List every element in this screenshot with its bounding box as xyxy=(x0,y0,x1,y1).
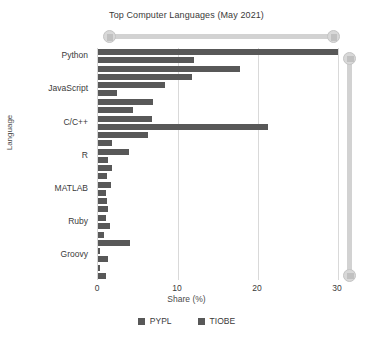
vertical-slider-track[interactable] xyxy=(347,58,352,276)
horizontal-slider-handle-right[interactable] xyxy=(327,30,340,43)
gridline-30 xyxy=(338,48,339,280)
bar xyxy=(98,74,192,80)
bar xyxy=(98,256,108,262)
bar xyxy=(98,173,107,179)
vertical-slider-handle-bottom[interactable] xyxy=(343,269,356,282)
legend-item-tiobe[interactable]: TIOBE xyxy=(198,316,236,326)
chart-title: Top Computer Languages (May 2021) xyxy=(0,10,373,20)
bar xyxy=(98,90,117,96)
bar xyxy=(98,124,268,130)
bar xyxy=(98,165,112,171)
y-tick-label-ruby: Ruby xyxy=(68,216,88,226)
bar xyxy=(98,215,106,221)
y-axis-tick-labels: PythonJavaScriptC/C++RMATLABRubyGroovy xyxy=(0,48,93,280)
x-tick-label-20: 20 xyxy=(252,283,261,293)
vertical-slider-handle-top[interactable] xyxy=(343,52,356,65)
y-tick-label-javascript: JavaScript xyxy=(48,83,88,93)
horizontal-slider-track[interactable] xyxy=(109,34,334,39)
bar xyxy=(98,190,106,196)
y-tick-label-matlab: MATLAB xyxy=(55,183,88,193)
bar xyxy=(98,99,153,105)
chart-page: Top Computer Languages (May 2021) Langua… xyxy=(0,0,373,347)
bar xyxy=(98,49,338,55)
legend-swatch-icon xyxy=(138,318,145,325)
bar xyxy=(98,132,148,138)
bar xyxy=(98,157,108,163)
x-axis-title: Share (%) xyxy=(0,294,373,304)
bar xyxy=(98,149,129,155)
bar xyxy=(98,248,100,254)
y-tick-label-groovy: Groovy xyxy=(61,249,88,259)
bar xyxy=(98,66,240,72)
bar xyxy=(98,232,104,238)
x-tick-label-0: 0 xyxy=(95,283,100,293)
legend-item-pypl[interactable]: PYPL xyxy=(138,316,172,326)
bar xyxy=(98,206,108,212)
horizontal-slider-handle-left[interactable] xyxy=(103,30,116,43)
legend-label: TIOBE xyxy=(210,316,236,326)
bar xyxy=(98,82,165,88)
bar xyxy=(98,240,130,246)
bar xyxy=(98,265,100,271)
legend-swatch-icon xyxy=(198,318,205,325)
plot-area xyxy=(97,48,339,280)
bar xyxy=(98,182,111,188)
horizontal-range-slider[interactable] xyxy=(103,32,340,41)
legend-label: PYPL xyxy=(150,316,172,326)
y-tick-label-python: Python xyxy=(62,50,88,60)
y-tick-label-c-c-: C/C++ xyxy=(63,117,88,127)
bar xyxy=(98,198,107,204)
x-tick-label-30: 30 xyxy=(332,283,341,293)
bar xyxy=(98,273,106,279)
chart-legend: PYPLTIOBE xyxy=(0,316,373,326)
bars-layer xyxy=(98,48,338,280)
x-tick-label-10: 10 xyxy=(172,283,181,293)
bar xyxy=(98,223,110,229)
vertical-range-slider[interactable] xyxy=(344,52,355,282)
bar xyxy=(98,57,194,63)
y-tick-label-r: R xyxy=(82,150,88,160)
bar xyxy=(98,140,112,146)
bar xyxy=(98,107,133,113)
bar xyxy=(98,116,152,122)
